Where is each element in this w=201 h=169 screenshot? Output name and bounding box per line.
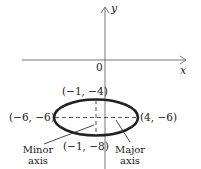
major-label-line1: Major [114, 144, 146, 155]
minor-axis-annotation: Minor axis [22, 144, 54, 166]
minor-label-line1: Minor [22, 144, 54, 155]
point-left-label: (−6, −6) [9, 112, 55, 123]
ellipse-diagram: y x 0 (−1, −4) (−6, −6) (4, −6) (−1, −8)… [0, 0, 201, 169]
major-axis-leader [116, 120, 130, 142]
major-axis-annotation: Major axis [114, 144, 146, 166]
x-axis-label: x [180, 65, 186, 76]
point-right-label: (4, −6) [140, 112, 177, 123]
major-label-line2: axis [114, 155, 146, 166]
origin-label: 0 [96, 62, 103, 73]
y-axis-label: y [111, 3, 117, 14]
point-top-label: (−1, −4) [62, 86, 108, 97]
minor-label-line2: axis [22, 155, 54, 166]
point-bottom-label: (−1, −8) [63, 141, 109, 152]
